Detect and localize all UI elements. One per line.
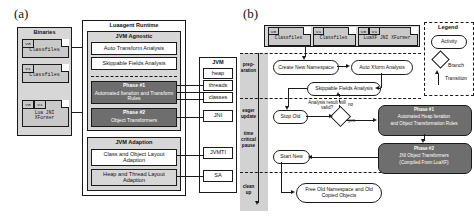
- flow-skippable-left: [288, 88, 307, 89]
- lane-divider-0: [240, 53, 421, 54]
- jvm-title: JVM: [199, 59, 237, 67]
- flow-phase2-to-startnew: [312, 157, 378, 158]
- activity-start-new: Start New: [273, 150, 310, 164]
- phase2-line3-b: (Compiled From LuaXF): [378, 160, 470, 167]
- binaries-title: Binaries: [17, 29, 72, 37]
- phase1-subtitle-a: Automated Iteration and Transform Rules: [92, 89, 176, 103]
- legend-transition-line: [438, 74, 439, 85]
- binary-label-2: Lua JNI XFormer: [22, 108, 67, 124]
- conn-phase2-jni: [177, 117, 203, 118]
- runtime-title: Luaagent Runtime: [82, 22, 186, 30]
- jvm-agnostic-title: JVM Agnostic: [87, 33, 181, 41]
- phase2-subtitle-a: Object Transformers: [92, 116, 176, 125]
- timeline-arrow-icon: [255, 201, 259, 205]
- lane-label-time-3: pause: [240, 143, 257, 150]
- skippable-fields-analysis-box: Skippable Fields Analysis: [91, 57, 177, 70]
- lane-label-clean-2: up: [240, 190, 257, 197]
- flow-arrow-b8: [308, 155, 312, 159]
- phase1-line2-b: Automated Heap Iteration: [378, 114, 470, 121]
- legend-branch-label: Branch: [448, 62, 464, 68]
- phase1-line3-b: and Object Transformation Rules: [378, 121, 470, 128]
- jvm-item-sa: SA: [203, 170, 233, 182]
- conn-adaption-jvmti: [177, 155, 203, 156]
- jvm-adaption-title: JVM Adaption: [87, 139, 181, 147]
- flow-arrow-b5: [329, 114, 333, 118]
- flow-arrow-b9: [291, 190, 295, 194]
- input-label-1: Classfiles: [313, 34, 354, 43]
- jvm-item-threads: threads: [203, 80, 233, 91]
- figure-root: (a) Binaries V0 Classfiles V1 Classfiles…: [0, 0, 474, 221]
- jvm-item-jvmti: JVMTI: [203, 147, 233, 159]
- agnostic-divider: [91, 76, 177, 77]
- legend-transition-arrow-icon: [435, 70, 439, 74]
- flow-stopold-to-branch: [306, 116, 330, 117]
- input-label-0: Classfiles: [268, 34, 309, 43]
- activity-skippable-fields-analysis: Skippable Fields Analysis: [307, 82, 381, 96]
- activity-free-old-namespace: Free Old Namespace and Old Copied Object…: [296, 183, 382, 203]
- panel-b-letter: (b): [243, 6, 258, 22]
- binary-label-0: Classfiles: [22, 46, 67, 55]
- lane-label-eager-2: update: [240, 114, 257, 121]
- flow-arrow-b2: [375, 86, 379, 90]
- phase1-title-a: Phase #1: [91, 82, 177, 89]
- timeline-axis: [258, 53, 259, 203]
- phase2-line2-b: JNI Object Transformers: [378, 153, 470, 160]
- flow-skippable-down: [288, 88, 289, 107]
- jvm-item-heap: heap: [203, 68, 233, 79]
- flow-arrow-b4: [336, 92, 340, 96]
- binary-label-1: Classfiles: [22, 71, 67, 80]
- phase2-title-b: Phase #2: [378, 146, 470, 153]
- flow-arrow-b6: [373, 118, 377, 122]
- activity-auto-xform-analysis: Auto Xform Analysis: [351, 60, 413, 75]
- conn-phase1-heap: [177, 85, 203, 86]
- flow-startnew-down: [281, 162, 282, 192]
- flow-arrow-b3: [285, 106, 289, 110]
- legend-activity-shape: Activity: [431, 35, 467, 49]
- phase1-title-b: Phase #1: [378, 107, 470, 114]
- jvm-item-classes: classes: [203, 92, 233, 103]
- conn-phase1-classes: [177, 99, 203, 100]
- branch-no-label: no: [348, 102, 353, 107]
- conn-phase1-threads: [177, 92, 203, 93]
- page-fold-icon: [61, 100, 69, 108]
- auto-transform-analysis-box: Auto Transform Analysis: [91, 42, 177, 55]
- flow-branch-to-phase1: [346, 120, 374, 121]
- flow-auto-left: [379, 88, 381, 89]
- branch-question: Analysis result still valid?: [305, 101, 349, 111]
- jvm-item-jni: JNI: [203, 110, 233, 122]
- phase2-title-a: Phase #2: [91, 109, 177, 116]
- flow-arrow-b7: [421, 139, 425, 143]
- input-label-2: LuaXF JNI XFormer: [358, 34, 416, 43]
- activity-stop-old: Stop Old: [273, 110, 308, 124]
- flow-auto-down: [381, 73, 382, 88]
- legend-transition-label: Transition: [445, 75, 467, 81]
- class-object-layout-adaption-box: Class and Object Layout Adaption: [91, 149, 177, 166]
- flow-arrow-b0: [302, 56, 306, 60]
- panel-a-letter: (a): [14, 6, 28, 22]
- conn-adaption-sa: [177, 176, 203, 177]
- lane-divider-1: [240, 98, 421, 99]
- flow-branch-up-dashed: [339, 94, 340, 108]
- activity-create-new-namespace: Create New Namespace: [273, 60, 339, 75]
- heap-thread-layout-adaption-box: Heap and Thread Layout Adaption: [91, 169, 177, 186]
- lane-label-prep-2: aration: [240, 68, 257, 75]
- flow-arrow-b1: [346, 64, 350, 68]
- legend-title: Legend: [424, 24, 472, 32]
